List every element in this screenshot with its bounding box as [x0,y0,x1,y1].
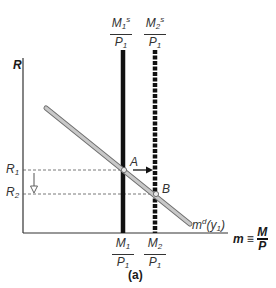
point-a-marker [121,167,126,172]
money-supply-1-top-label: M1s P1 [110,13,132,52]
point-a-label: A [130,155,138,169]
money-demand-label: md(y1) [192,217,225,233]
x-axis-label: m ≡ M P [233,226,268,252]
rate-r1-label: R1 [6,162,19,177]
point-b-marker [153,191,158,196]
rate-r2-label: R2 [6,185,19,200]
point-b-label: B [162,182,170,196]
money-supply-1-axis-label: M1 P1 [112,237,134,272]
y-axis-label: R [13,58,22,72]
rate-down-arrowhead-icon [31,186,38,193]
money-supply-2-axis-label: M2 P1 [144,237,166,272]
money-demand-curve [46,108,190,224]
shift-right-arrowhead-icon [146,167,153,174]
panel-label: (a) [128,268,143,282]
money-supply-2-top-label: M2s P1 [144,13,166,52]
